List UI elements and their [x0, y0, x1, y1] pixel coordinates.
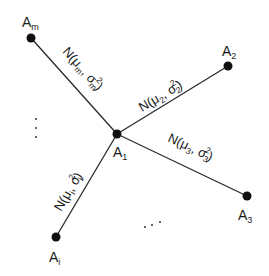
- edge-a1-a2: [117, 66, 228, 134]
- vertical-ellipsis: [35, 118, 37, 138]
- node-ai: [52, 233, 61, 242]
- horizontal-ellipsis: [144, 221, 161, 228]
- node-label-a2: A2: [222, 43, 236, 61]
- node-label-a3: A3: [238, 207, 252, 225]
- star-diagram: Am A2 A3 Ai A1 N(μm, σm2) N(μ2, σ22) N(μ…: [0, 0, 269, 276]
- node-am: [27, 34, 36, 43]
- svg-text:N(μm, σm2): N(μm, σm2): [58, 43, 107, 95]
- edge-label-ai: N(μi, σi2): [49, 169, 87, 215]
- node-a2: [224, 62, 233, 71]
- node-a1: [113, 130, 122, 139]
- node-a3: [243, 192, 252, 201]
- node-label-a1: A1: [113, 144, 127, 162]
- node-label-am: Am: [22, 14, 39, 32]
- node-label-ai: Ai: [49, 249, 60, 267]
- svg-text:N(μi, σi2): N(μi, σi2): [49, 169, 87, 215]
- edge-label-am: N(μm, σm2): [58, 43, 107, 95]
- edge-label-a2: N(μ2, σ22): [135, 75, 186, 116]
- svg-text:N(μ2, σ22): N(μ2, σ22): [135, 75, 186, 116]
